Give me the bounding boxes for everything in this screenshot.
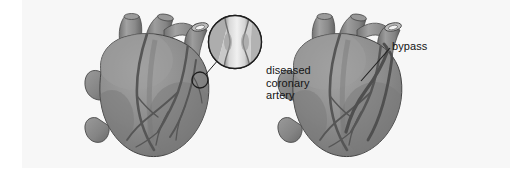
diseased-coronary-artery-label: diseased coronary artery	[266, 64, 311, 102]
diseased-artery-inset	[204, 8, 266, 70]
diseased-label-line-3: artery	[266, 89, 311, 102]
left-heart-lower-lobe	[85, 118, 109, 143]
bypass-label: bypass	[392, 40, 427, 53]
right-heart-lower-lobe	[278, 118, 302, 143]
illustration-canvas	[0, 0, 510, 177]
left-heart-illustration	[85, 8, 266, 158]
figure-root: diseased coronary artery bypass	[0, 0, 510, 177]
diseased-label-line-2: coronary	[266, 77, 311, 90]
diseased-label-line-1: diseased	[266, 64, 311, 77]
